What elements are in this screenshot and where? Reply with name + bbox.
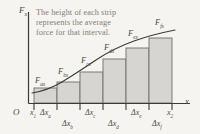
bar-d bbox=[103, 59, 126, 103]
annotation-note: The height of each strip represents the … bbox=[36, 8, 128, 39]
force-label-ax: Fax bbox=[35, 77, 45, 87]
bar-f bbox=[149, 38, 172, 103]
force-vs-position-figure: The height of each strip represents the … bbox=[0, 0, 200, 134]
bars-group bbox=[34, 38, 172, 103]
interval-label-d: Δxd bbox=[108, 120, 119, 130]
force-label-cx: Fcx bbox=[81, 57, 91, 67]
x-start-label: x1 bbox=[30, 109, 36, 119]
interval-label-b: Δxb bbox=[62, 120, 73, 130]
force-label-fx: Ffx bbox=[155, 19, 164, 29]
bar-b bbox=[57, 82, 80, 103]
interval-label-e: Δxe bbox=[131, 109, 142, 119]
force-label-dx: Fdx bbox=[104, 44, 114, 54]
force-label-bx: Fbx bbox=[58, 68, 68, 78]
y-axis-label: Fx bbox=[19, 6, 27, 18]
x-axis-ticks bbox=[34, 104, 172, 111]
x-end-label: x2 bbox=[167, 109, 173, 119]
force-label-ex: Fex bbox=[128, 30, 138, 40]
interval-label-a: Δxa bbox=[40, 109, 51, 119]
bar-e bbox=[126, 48, 149, 103]
x-axis-label: x bbox=[185, 97, 189, 106]
origin-label: O bbox=[13, 108, 20, 117]
interval-label-c: Δxc bbox=[85, 109, 96, 119]
bar-c bbox=[80, 72, 103, 103]
interval-label-f: Δxf bbox=[152, 120, 162, 130]
